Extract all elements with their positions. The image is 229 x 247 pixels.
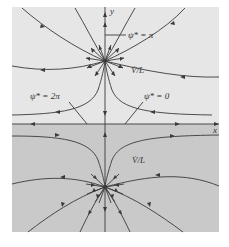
- label-psi-2pi: ψ* = 2π: [30, 91, 60, 101]
- x-axis-label: x: [212, 125, 217, 135]
- streamline-diagram: y x ψ* = π ψ* = 2π ψ* = 0 V̇/L V̇/L: [0, 0, 229, 247]
- sink-label: V̇/L: [132, 155, 145, 165]
- label-psi-0: ψ* = 0: [144, 91, 170, 101]
- y-axis-label: y: [109, 6, 114, 16]
- label-psi-pi: ψ* = π: [128, 30, 154, 40]
- source-label: V̇/L: [131, 65, 144, 75]
